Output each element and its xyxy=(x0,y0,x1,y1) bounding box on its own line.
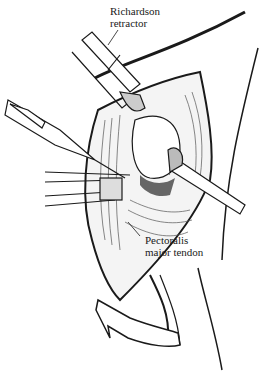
label-richardson-retractor: Richardson retractor xyxy=(110,5,160,29)
label-line: Richardson xyxy=(110,5,160,17)
label-line: major tendon xyxy=(145,246,203,258)
arm-lower-contour xyxy=(198,268,222,370)
label-line: Pectoralis xyxy=(145,234,203,246)
label-pectoralis-major-tendon: Pectoralis major tendon xyxy=(145,234,203,258)
richardson-leader xyxy=(108,30,118,45)
label-line: retractor xyxy=(110,17,160,29)
surgical-illustration: Richardson retractor Pectoralis major te… xyxy=(0,0,261,376)
arm-contour xyxy=(222,48,258,260)
line-drawing xyxy=(0,0,261,376)
